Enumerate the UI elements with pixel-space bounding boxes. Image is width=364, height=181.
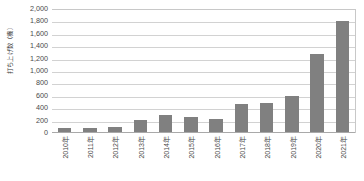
x-axis-tick-label: 2013年 [137,136,144,159]
x-axis-tick-label: 2010年 [61,136,68,159]
y-axis-tick-label: 1,200 [30,55,48,62]
x-tick-slot: 2011年 [77,133,102,181]
x-axis-tick-label: 2015年 [188,136,195,159]
y-axis-tick-label: 1,000 [30,67,48,74]
y-axis-tick-label: 1,400 [30,43,48,50]
x-axis-tick-label: 2019年 [289,136,296,159]
bar-slot [128,10,153,133]
bar[interactable] [336,21,349,133]
bar-slot [52,10,77,133]
y-axis-tick-labels: 2,0001,8001,6001,4001,2001,0008006004002… [14,0,50,181]
bar[interactable] [260,103,273,133]
x-tick-slot: 2018年 [255,133,280,181]
bar[interactable] [235,104,248,133]
bar[interactable] [209,119,222,133]
bar-slot [77,10,102,133]
y-axis-tick-label: 2,000 [30,5,48,12]
y-axis-tick-label: 1,800 [30,18,48,25]
y-axis-tick-label: 200 [36,117,48,124]
bar-series [52,10,355,133]
x-axis-tick-label: 2021年 [340,136,347,159]
x-axis-tick-label: 2012年 [112,136,119,159]
x-axis-tick-label: 2011年 [86,136,93,158]
bar-slot [153,10,178,133]
x-tick-slot: 2017年 [229,133,254,181]
x-axis-tick-label: 2018年 [264,136,271,159]
x-tick-slot: 2016年 [204,133,229,181]
y-axis-tick-label: 1,600 [30,30,48,37]
x-axis-tick-label: 2014年 [162,136,169,159]
x-tick-slot: 2021年 [331,133,356,181]
x-tick-slot: 2014年 [153,133,178,181]
y-axis-tick-label: 0 [44,129,48,136]
x-axis-tick-label: 2017年 [238,136,245,159]
bar-slot [229,10,254,133]
x-axis-tick-label: 2020年 [314,136,321,159]
x-tick-slot: 2013年 [128,133,153,181]
bar[interactable] [184,117,197,133]
bar-slot [305,10,330,133]
y-axis-title: 打ち上げ数（機） [7,13,13,85]
x-tick-slot: 2015年 [179,133,204,181]
bar[interactable] [310,54,323,133]
y-axis-tick-label: 400 [36,105,48,112]
bar-slot [254,10,279,133]
bar-slot [178,10,203,133]
x-tick-slot: 2010年 [52,133,77,181]
x-axis-tick-label: 2016年 [213,136,220,159]
x-tick-slot: 2020年 [305,133,330,181]
bar[interactable] [285,96,298,133]
bar-slot [204,10,229,133]
plot-area [52,9,356,133]
bar-slot [330,10,355,133]
bar-slot [279,10,304,133]
y-axis-tick-label: 800 [36,80,48,87]
y-axis-tick-label: 600 [36,92,48,99]
x-tick-slot: 2019年 [280,133,305,181]
bar-slot [103,10,128,133]
x-axis-tick-labels: 2010年2011年2012年2013年2014年2015年2016年2017年… [52,133,356,181]
bar-chart: 打ち上げ数（機） 2,0001,8001,6001,4001,2001,0008… [0,0,364,181]
bar[interactable] [159,115,172,133]
x-tick-slot: 2012年 [103,133,128,181]
